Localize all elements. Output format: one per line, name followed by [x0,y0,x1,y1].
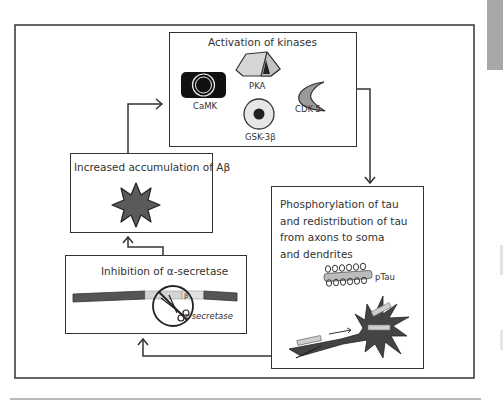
arrow-tau-to-secretase [138,339,271,356]
arrow-kinases-to-tau [357,89,375,183]
secretase-box: Inhibition of α-secretase β α-secretase [65,255,247,334]
neuron-icon [289,296,409,358]
page-rule [10,398,481,400]
secretase-illustration: β [65,255,247,334]
amyloid-star-icon [112,183,160,227]
abeta-box: Increased accumulation of Aβ [70,153,213,233]
gsk3b-icon [244,99,274,129]
pka-label: PKA [249,81,265,91]
tent-icon [236,52,280,76]
arrow-abeta-to-kinases [128,99,162,153]
tau-box: Phosphorylation of tau and redistributio… [271,186,424,369]
cdk5-label: CDK-5 [295,104,321,114]
gsk3b-label: GSK-3β [245,132,276,142]
camk-icon [181,72,226,98]
camk-label: CaMK [193,101,217,111]
abeta-illustration [70,153,213,233]
arrow-secretase-to-abeta [123,237,163,255]
ptau-label: pTau [375,272,395,282]
alpha-secretase-label: α-secretase [183,311,233,321]
kinases-box: Activation of kinases CaMK PKA GSK-3β CD… [169,32,357,147]
tau-illustration [271,186,424,369]
ptau-icon [324,263,372,286]
